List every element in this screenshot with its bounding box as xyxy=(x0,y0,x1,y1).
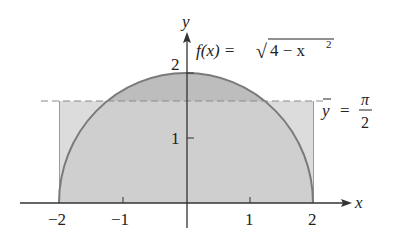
function-label-radicand: 4 − x xyxy=(270,41,306,60)
x-tick-label: 1 xyxy=(245,210,254,229)
graph-figure: −2 −1 1 2 1 2 x y f(x) = √ 4 − x 2 y = π… xyxy=(0,0,400,248)
x-tick-label: −1 xyxy=(111,210,129,229)
radical-icon: √ xyxy=(256,40,267,62)
y-axis-label: y xyxy=(180,12,190,31)
mean-label-eq: = xyxy=(340,101,350,120)
mean-label-numerator: π xyxy=(361,91,370,108)
mean-value-label: y = π 2 xyxy=(320,91,372,131)
mean-label-var: y xyxy=(320,101,330,120)
x-tick-label: 2 xyxy=(308,210,317,229)
function-label: f(x) = √ 4 − x 2 xyxy=(196,38,334,62)
y-tick-label: 1 xyxy=(171,129,180,148)
x-axis-label: x xyxy=(354,193,363,212)
function-label-exponent: 2 xyxy=(326,38,332,50)
function-label-lhs: f(x) = xyxy=(196,41,235,60)
mean-label-denominator: 2 xyxy=(361,114,369,131)
x-tick-label: −2 xyxy=(48,210,66,229)
y-tick-label: 2 xyxy=(171,55,180,74)
